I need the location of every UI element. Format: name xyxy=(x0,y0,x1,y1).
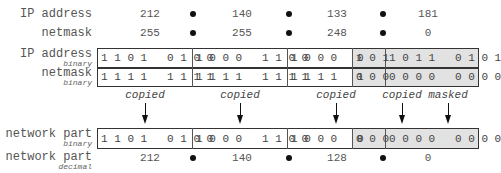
network-binary-octet-4: 0 0 0 0 0 0 0 0 xyxy=(389,133,501,145)
arrowhead-icon xyxy=(333,115,339,124)
network-octet-3: 128 xyxy=(317,152,357,164)
arrowhead-icon xyxy=(445,115,451,124)
network-binary-octet-3-host: 0 0 0 xyxy=(356,133,389,145)
dot-separator xyxy=(190,155,196,161)
row-divider xyxy=(97,67,479,69)
network-octet-1: 212 xyxy=(130,152,170,164)
ip-binary-octet-3-net: 1 0 0 0 0 xyxy=(291,52,364,64)
dot-separator xyxy=(190,11,196,17)
ip-octet-4: 181 xyxy=(408,8,448,20)
netmask-binary-octet-4: 0 0 0 0 0 0 0 0 xyxy=(389,71,501,83)
dot-separator xyxy=(286,11,292,17)
dot-separator xyxy=(190,30,196,36)
netmask-binary-octet-3-host: 0 0 0 xyxy=(356,71,389,83)
ip-octet-3: 133 xyxy=(317,8,357,20)
dot-separator xyxy=(380,155,386,161)
annotation-copied-1: copied xyxy=(115,89,175,101)
dot-separator xyxy=(286,30,292,36)
annotation-copied-2: copied xyxy=(210,89,270,101)
arrowhead-icon xyxy=(237,115,243,124)
netmask-binary-sublabel: binary xyxy=(0,79,92,87)
netmask-binary-octet-3-net: 1 1 1 1 1 xyxy=(291,71,364,83)
ip-binary-octet-4: 1 0 1 1 0 1 0 1 xyxy=(389,52,501,64)
arrowhead-icon xyxy=(142,115,148,124)
netmask-label: netmask xyxy=(0,27,92,39)
netmask-octet-3: 248 xyxy=(317,27,357,39)
dot-separator xyxy=(380,11,386,17)
ip-binary-octet-3-host: 1 0 1 xyxy=(356,52,389,64)
ip-address-label: IP address xyxy=(0,8,92,20)
netmask-octet-2: 255 xyxy=(222,27,262,39)
network-binary-sublabel: binary xyxy=(0,140,92,148)
annotation-copied-3: copied xyxy=(306,89,366,101)
ip-octet-1: 212 xyxy=(130,8,170,20)
network-octet-4: 0 xyxy=(408,152,448,164)
dot-separator xyxy=(286,155,292,161)
netmask-octet-4: 0 xyxy=(408,27,448,39)
dot-separator xyxy=(380,30,386,36)
arrowhead-icon xyxy=(399,115,405,124)
ip-octet-2: 140 xyxy=(222,8,262,20)
netmask-octet-1: 255 xyxy=(130,27,170,39)
network-decimal-sublabel: decimal xyxy=(0,163,92,171)
annotation-masked: masked xyxy=(418,89,478,101)
network-binary-octet-3-net: 1 0 0 0 0 xyxy=(291,133,364,145)
network-octet-2: 140 xyxy=(222,152,262,164)
